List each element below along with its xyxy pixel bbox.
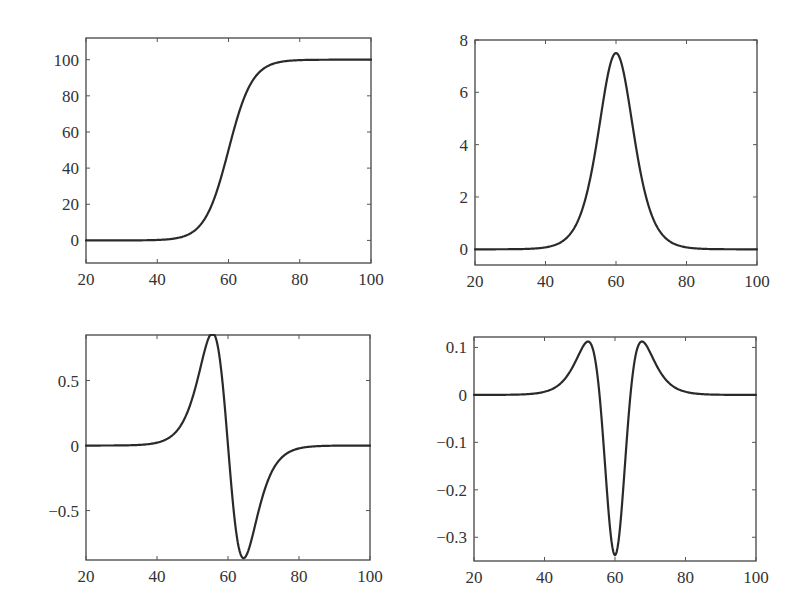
y-tick-label: 60 [62,123,79,142]
y-tick-label: −0.2 [436,481,467,500]
x-tick-label: 80 [291,270,308,289]
y-tick-label: −0.1 [436,433,467,452]
x-tick-label: 80 [291,567,308,586]
x-tick-label: 80 [678,272,695,291]
x-tick-label: 20 [467,272,484,291]
x-tick-label: 40 [149,567,166,586]
y-tick-label: −0.5 [48,502,79,521]
x-tick-label: 60 [220,270,237,289]
x-tick-label: 60 [607,568,624,587]
x-tick-label: 100 [358,270,384,289]
y-tick-label: 0 [459,386,468,405]
axes-frame [474,337,756,561]
data-line [475,53,757,249]
x-tick-label: 100 [743,568,769,587]
x-tick-label: 60 [220,567,237,586]
y-tick-label: −0.3 [436,528,467,547]
x-tick-label: 80 [677,568,694,587]
y-tick-label: 2 [460,188,469,207]
subplot-top-left: 20406080100020406080100 [54,38,384,289]
x-tick-label: 60 [608,272,625,291]
y-tick-label: 0 [460,240,469,259]
subplot-bottom-right: 20406080100−0.3−0.2−0.100.1 [436,337,769,587]
y-tick-label: 6 [460,83,469,102]
y-tick-label: 20 [62,195,79,214]
x-tick-label: 100 [357,567,383,586]
y-tick-label: 80 [62,87,79,106]
y-tick-label: 8 [460,31,469,50]
y-tick-label: 0 [71,231,80,250]
data-line [86,60,371,241]
x-tick-label: 40 [149,270,166,289]
x-tick-label: 40 [536,568,553,587]
axes-frame [475,40,757,265]
figure: 20406080100020406080100 2040608010002468… [0,0,806,616]
y-tick-label: 0.1 [446,338,467,357]
x-tick-label: 20 [466,568,483,587]
subplot-top-right: 2040608010002468 [460,31,770,291]
y-tick-label: 4 [460,136,469,155]
x-tick-label: 100 [744,272,770,291]
y-tick-label: 100 [54,51,80,70]
y-tick-label: 40 [62,159,79,178]
y-tick-label: 0 [71,437,80,456]
x-tick-label: 20 [78,270,95,289]
x-tick-label: 40 [537,272,554,291]
x-tick-label: 20 [78,567,95,586]
y-tick-label: 0.5 [58,372,79,391]
data-line [474,342,756,556]
data-line [86,335,370,558]
subplot-bottom-left: 20406080100−0.500.5 [48,335,383,586]
